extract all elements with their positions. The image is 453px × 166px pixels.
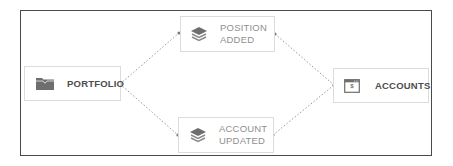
node-label: POSITION ADDED xyxy=(220,22,267,46)
node-accounts[interactable]: $ ACCOUNTS xyxy=(333,68,429,103)
folder-icon xyxy=(35,77,55,91)
node-label-line2: UPDATED xyxy=(219,135,267,147)
node-label-line2: ADDED xyxy=(220,34,267,46)
node-label: ACCOUNT UPDATED xyxy=(219,123,267,147)
node-label-line1: POSITION xyxy=(220,22,267,34)
layers-icon xyxy=(190,26,208,42)
node-portfolio[interactable]: PORTFOLIO xyxy=(24,66,121,101)
node-label: PORTFOLIO xyxy=(67,78,124,90)
edge-portfolio-position-added xyxy=(120,33,179,84)
edge-account-updated-accounts xyxy=(273,85,334,135)
layers-icon xyxy=(189,127,207,143)
edge-position-added-accounts xyxy=(275,34,334,85)
node-account-updated[interactable]: ACCOUNT UPDATED xyxy=(178,117,274,153)
node-label: ACCOUNTS xyxy=(375,80,430,92)
node-label-line1: ACCOUNT xyxy=(219,123,267,135)
node-position-added[interactable]: POSITION ADDED xyxy=(180,16,275,52)
browser-dollar-icon: $ xyxy=(344,79,360,93)
dollar-glyph: $ xyxy=(344,83,360,89)
edge-portfolio-account-updated xyxy=(120,84,178,135)
